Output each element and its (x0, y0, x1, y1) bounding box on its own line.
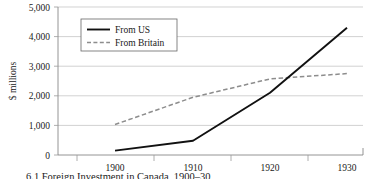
line-chart: 5,000 4,000 3,000 2,000 1,000 0 $ millio… (0, 0, 369, 179)
x-tick-marks (77, 155, 308, 161)
x-tick-label-1930: 1930 (338, 163, 357, 173)
y-tick-label-2000: 2,000 (29, 91, 51, 101)
y-tick-label-0: 0 (45, 151, 50, 161)
y-tick-label-4000: 4,000 (29, 32, 51, 42)
y-tick-label-3000: 3,000 (29, 62, 51, 72)
y-axis-tick-labels: 5,000 4,000 3,000 2,000 1,000 0 (29, 3, 51, 161)
x-tick-label-1920: 1920 (261, 163, 280, 173)
y-axis-title: $ millions (8, 62, 18, 101)
y-tick-label-1000: 1,000 (29, 121, 51, 131)
legend-label-from-us: From US (115, 25, 150, 35)
legend-label-from-britain: From Britain (115, 38, 165, 48)
chart-figure: 5,000 4,000 3,000 2,000 1,000 0 $ millio… (0, 0, 369, 179)
y-tick-marks (54, 7, 58, 155)
chart-legend[interactable]: From US From Britain (81, 19, 177, 51)
figure-caption: 6.1 Foreign Investment in Canada, 1900–3… (26, 171, 211, 179)
y-tick-label-5000: 5,000 (29, 3, 51, 13)
